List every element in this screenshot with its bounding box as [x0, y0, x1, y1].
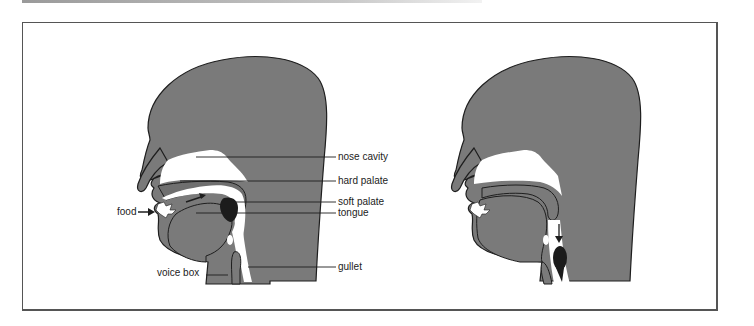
label-soft-palate: soft palate — [338, 196, 385, 207]
label-nose-cavity: nose cavity — [338, 151, 388, 162]
right-head-cross-section — [452, 57, 641, 284]
left-epiglottis — [227, 235, 233, 245]
right-tongue — [477, 196, 547, 262]
label-hard-palate: hard palate — [338, 175, 388, 186]
right-epiglottis — [543, 235, 549, 245]
right-food-bolus — [553, 246, 567, 270]
label-gullet: gullet — [338, 261, 362, 272]
label-food: food — [117, 206, 136, 217]
left-voice-box — [232, 252, 241, 284]
swallowing-diagram: nose cavity hard palate soft palate tong… — [0, 0, 754, 326]
label-voice-box: voice box — [157, 267, 199, 278]
left-head-cross-section — [138, 57, 327, 284]
label-tongue: tongue — [338, 207, 369, 218]
